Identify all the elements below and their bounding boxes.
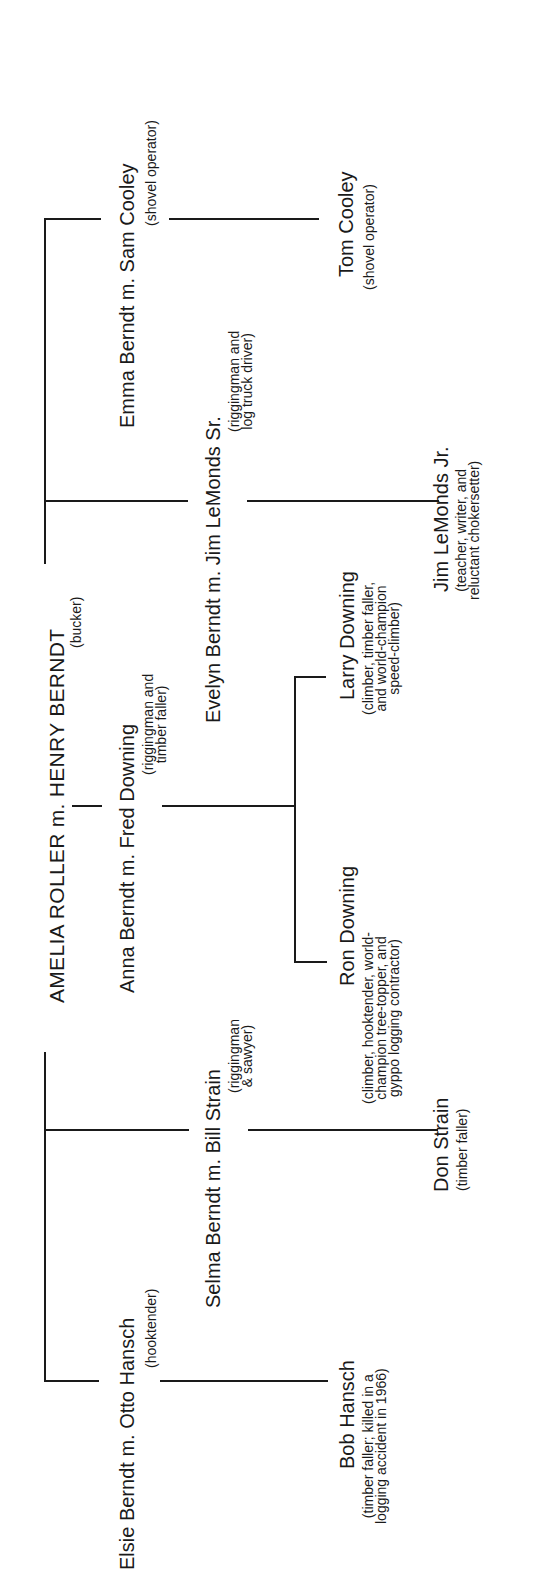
connector-larry [294,676,326,678]
person-larry-downing: Larry Downing [337,571,357,700]
connector-ron [294,961,327,963]
connector-evelyn-child [247,500,439,502]
occupation-fred: (riggingman and timber faller) [142,674,168,775]
occupation-larry-downing: (climber, timber faller, and world-champ… [362,582,401,715]
occupation-tom-cooley: (shovel operator) [363,184,376,290]
couple-elsie-otto: Elsie Berndt m. Otto Hansch [117,1318,137,1570]
connector-emma-child [169,218,319,220]
person-ron-downing: Ron Downing [337,866,357,986]
occupation-bill: (riggingman & sawyer) [228,1019,254,1093]
couple-emma-sam: Emma Berndt m. Sam Cooley [117,163,137,428]
occupation-otto: (hooktender) [145,1289,158,1368]
occupation-don-strain: (timber faller) [456,1109,469,1191]
root-couple-label: AMELIA ROLLER m. HENRY BERNDT [46,629,67,1003]
occupation-ron-downing: (climber, hooktender, world- champion tr… [362,932,401,1104]
person-jim-lemonds-jr: Jim LeMonds Jr. [431,446,451,592]
connector-elsie-child [160,1380,328,1382]
couple-anna-fred: Anna Berndt m. Fred Downing [117,724,137,993]
person-don-strain: Don Strain [431,1098,451,1193]
connector-emma [44,218,101,220]
occupation-jim-sr: (riggingman and log truck driver) [228,331,254,432]
occupation-bob-hansch: (timber faller; killed in a logging acci… [362,1368,388,1524]
connector-elsie [44,1380,99,1382]
connector-selma [44,1129,189,1131]
couple-evelyn-jim: Evelyn Berndt m. Jim LeMonds Sr. [203,416,223,723]
connector-selma-child [248,1129,438,1131]
downing-sibling-bar [294,676,296,963]
connector-anna [72,805,102,807]
occupation-sam: (shovel operator) [145,120,158,226]
connector-evelyn [44,500,188,502]
main-trunk-upper [44,219,46,564]
person-bob-hansch: Bob Hansch [337,1360,357,1469]
connector-anna-children [162,805,296,807]
occupation-jim-lemonds-jr: (teacher, writer, and reluctant chokerse… [455,461,481,600]
couple-selma-bill: Selma Berndt m. Bill Strain [203,1069,223,1308]
person-tom-cooley: Tom Cooley [336,171,356,277]
main-trunk-lower [44,1052,46,1382]
root-occupation: (bucker) [70,597,83,648]
